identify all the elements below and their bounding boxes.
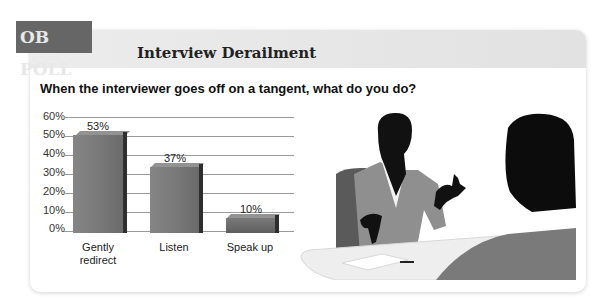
category-label-speak-up: Speak up xyxy=(210,241,290,254)
y-tick-60: 60% xyxy=(39,110,65,122)
y-tick-40: 40% xyxy=(39,147,65,159)
bar-side xyxy=(275,215,279,233)
bar-side xyxy=(123,132,127,233)
y-tick-30: 30% xyxy=(39,166,65,178)
category-line: redirect xyxy=(58,254,138,267)
category-label-listen: Listen xyxy=(134,241,214,254)
value-label: 37% xyxy=(145,152,205,164)
y-tick-0: 0% xyxy=(39,222,65,234)
poll-badge: OB POLL xyxy=(16,21,92,53)
bar-front xyxy=(150,167,199,233)
category-line: Gently xyxy=(58,241,138,254)
value-label: 10% xyxy=(221,203,281,215)
y-tick-50: 50% xyxy=(39,128,65,140)
candidate-head xyxy=(505,114,576,212)
bar-front xyxy=(226,218,275,233)
bar-side xyxy=(199,164,203,233)
bar-front xyxy=(73,135,123,233)
page-title: Interview Derailment xyxy=(137,44,316,62)
category-label-gently-redirect: Gently redirect xyxy=(58,241,138,267)
gridline xyxy=(64,117,294,118)
y-tick-10: 10% xyxy=(39,204,65,216)
interview-illustration xyxy=(296,112,576,280)
value-label: 53% xyxy=(68,120,128,132)
y-tick-20: 20% xyxy=(39,185,65,197)
